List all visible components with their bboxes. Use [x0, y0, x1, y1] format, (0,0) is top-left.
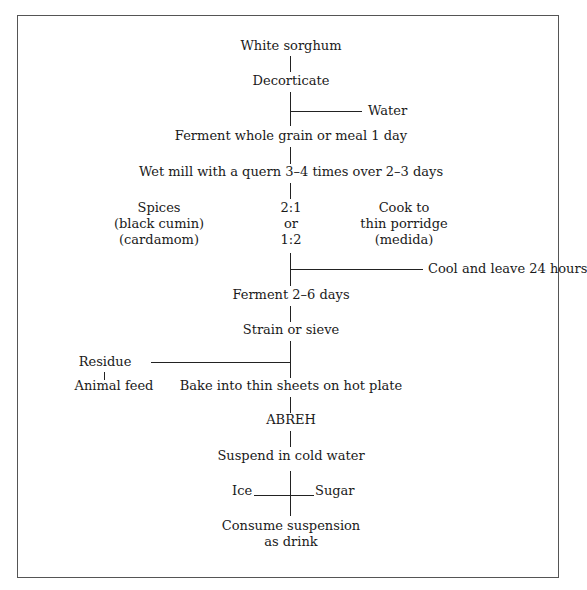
node-water: Water	[368, 103, 407, 119]
connector	[290, 471, 291, 516]
node-wet-mill: Wet mill with a quern 3–4 times over 2–3…	[139, 164, 443, 180]
node-animal-feed: Animal feed	[75, 378, 154, 394]
spices-line: (black cumin)	[114, 216, 204, 232]
node-ice: Ice	[232, 483, 252, 499]
spices-line: (cardamom)	[114, 232, 204, 248]
branch-cool	[291, 269, 423, 270]
consume-line: as drink	[222, 534, 360, 550]
consume-line: Consume suspension	[222, 518, 360, 534]
ratio-line: or	[281, 216, 302, 232]
node-ratio: 2:1 or 1:2	[281, 200, 302, 248]
cook-line: thin porridge	[360, 216, 447, 232]
connector	[290, 431, 291, 447]
node-sugar: Sugar	[315, 483, 355, 499]
connector	[290, 397, 291, 413]
node-suspend: Suspend in cold water	[217, 448, 364, 464]
node-decorticate: Decorticate	[253, 73, 330, 89]
connector	[290, 306, 291, 322]
connector	[290, 147, 291, 164]
branch-water	[291, 111, 362, 112]
node-strain: Strain or sieve	[243, 322, 340, 338]
branch-ice-sugar	[254, 495, 314, 496]
cook-line: Cook to	[360, 200, 447, 216]
node-ferment-1day: Ferment whole grain or meal 1 day	[175, 128, 407, 144]
connector	[290, 56, 291, 72]
connector	[290, 92, 291, 126]
spices-line: Spices	[114, 200, 204, 216]
node-abreh: ABREH	[266, 412, 316, 428]
connector	[290, 344, 291, 378]
node-bake: Bake into thin sheets on hot plate	[180, 378, 402, 394]
node-residue: Residue	[79, 354, 132, 370]
node-white-sorghum: White sorghum	[240, 38, 341, 54]
node-cool-24h: Cool and leave 24 hours	[428, 261, 587, 277]
node-cook-porridge: Cook to thin porridge (medida)	[360, 200, 447, 248]
ratio-line: 1:2	[281, 232, 302, 248]
connector	[290, 183, 291, 199]
cook-line: (medida)	[360, 232, 447, 248]
node-ferment-2-6days: Ferment 2–6 days	[232, 287, 349, 303]
branch-residue	[151, 362, 291, 363]
ratio-line: 2:1	[281, 200, 302, 216]
node-consume: Consume suspension as drink	[222, 518, 360, 550]
node-spices: Spices (black cumin) (cardamom)	[114, 200, 204, 248]
